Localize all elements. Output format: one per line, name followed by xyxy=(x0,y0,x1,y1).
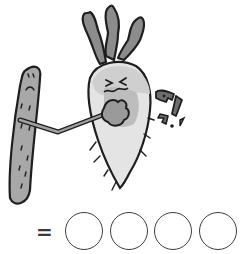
answer-slot-3[interactable] xyxy=(154,212,192,250)
answer-slot-4[interactable] xyxy=(199,212,237,250)
radish-leaves-icon xyxy=(83,6,144,64)
radish-punch-illustration xyxy=(0,0,240,210)
equals-sign: = xyxy=(36,219,53,245)
quiz-card: = xyxy=(0,0,240,254)
answer-slot-1[interactable] xyxy=(65,212,103,250)
radish-body xyxy=(88,62,154,190)
cucumber-character xyxy=(10,67,41,204)
impact-sound-effect xyxy=(156,90,184,128)
answer-slot-2[interactable] xyxy=(110,212,148,250)
